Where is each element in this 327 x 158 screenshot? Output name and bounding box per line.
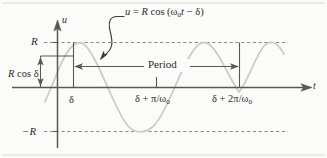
initial-value-func: cos <box>17 68 31 79</box>
equation-close-paren: ) <box>200 6 204 17</box>
x-tick-label-phase-full: δ + 2π/ω0 <box>212 94 252 106</box>
initial-value-label: R cos δ <box>8 69 39 80</box>
x-tick-label-phase-start: δ <box>69 95 74 106</box>
y-tick-label-negative-R: −R <box>22 126 36 137</box>
plot-canvas <box>0 0 327 158</box>
x-tick-phase-half-base: δ + π/ω <box>135 93 166 104</box>
period-label: Period <box>148 59 177 70</box>
x-axis-label: t <box>313 81 316 91</box>
x-tick-phase-full-base: δ + 2π/ω <box>212 93 249 104</box>
y-axis-label: u <box>62 15 67 25</box>
initial-value-delta: δ <box>34 68 39 79</box>
figure-background <box>0 0 327 158</box>
x-tick-label-phase-half: δ + π/ω0 <box>135 94 170 106</box>
equation-func: cos <box>150 6 164 17</box>
figure-container: u = R cos (ω0t − δ) R −R R cos δ u t Per… <box>0 0 327 158</box>
y-tick-label-positive-R: R <box>31 36 38 47</box>
x-tick-phase-half-subscript: 0 <box>166 98 170 106</box>
equation-label: u = R cos (ω0t − δ) <box>125 7 204 19</box>
equation-omega: ω <box>171 6 178 17</box>
x-tick-phase-full-subscript: 0 <box>249 98 253 106</box>
